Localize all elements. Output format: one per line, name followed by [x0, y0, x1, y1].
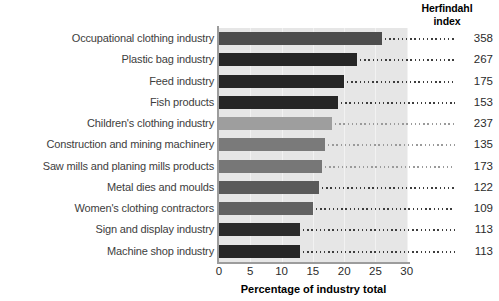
chart-row: Feed industry175	[0, 71, 499, 92]
leader-dots	[335, 123, 455, 125]
herfindahl-index-value: 153	[455, 92, 493, 113]
leader-dots	[316, 208, 455, 210]
herfindahl-index-value: 237	[455, 113, 493, 134]
x-tick-label: 0	[204, 265, 234, 277]
herfindahl-index-value: 109	[455, 198, 493, 219]
category-label: Fish products	[0, 92, 214, 113]
x-axis-line	[217, 262, 410, 264]
category-label: Children's clothing industry	[0, 113, 214, 134]
leader-dots	[303, 251, 455, 253]
bar	[219, 138, 325, 151]
herfindahl-index-value: 175	[455, 71, 493, 92]
herfindahl-index-value: 267	[455, 49, 493, 70]
category-label: Feed industry	[0, 71, 214, 92]
bar	[219, 96, 338, 109]
herfindahl-index-value: 113	[455, 219, 493, 240]
category-label: Occupational clothing industry	[0, 28, 214, 49]
herfindahl-bar-chart-figure: Herfindahl index Occupational clothing i…	[0, 0, 499, 301]
chart-row: Fish products153	[0, 92, 499, 113]
chart-row: Sign and display industry113	[0, 219, 499, 240]
category-label: Machine shop industry	[0, 241, 214, 262]
x-tick-label: 30	[392, 265, 422, 277]
herfindahl-index-value: 173	[455, 156, 493, 177]
chart-row: Construction and mining machinery135	[0, 134, 499, 155]
chart-rows: Occupational clothing industry358Plastic…	[0, 28, 499, 262]
x-tick-label: 10	[267, 265, 297, 277]
herfindahl-header-line2: index	[401, 15, 493, 28]
bar	[219, 32, 382, 45]
leader-dots	[341, 102, 455, 104]
category-label: Plastic bag industry	[0, 49, 214, 70]
chart-row: Occupational clothing industry358	[0, 28, 499, 49]
chart-row: Women's clothing contractors109	[0, 198, 499, 219]
herfindahl-index-header: Herfindahl index	[401, 2, 493, 27]
category-label: Construction and mining machinery	[0, 134, 214, 155]
chart-row: Plastic bag industry267	[0, 49, 499, 70]
bar	[219, 223, 300, 236]
herfindahl-index-value: 135	[455, 134, 493, 155]
bar	[219, 181, 319, 194]
leader-dots	[325, 166, 455, 168]
leader-dots	[303, 229, 455, 231]
category-label: Saw mills and planing mills products	[0, 156, 214, 177]
leader-dots	[328, 144, 455, 146]
bar	[219, 75, 344, 88]
x-tick-label: 20	[329, 265, 359, 277]
leader-dots	[385, 38, 455, 40]
bar	[219, 117, 332, 130]
bar	[219, 160, 322, 173]
x-tick-label: 5	[235, 265, 265, 277]
x-tick-label: 15	[298, 265, 328, 277]
chart-row: Machine shop industry113	[0, 241, 499, 262]
category-label: Women's clothing contractors	[0, 198, 214, 219]
x-tick-label: 25	[360, 265, 390, 277]
category-label: Metal dies and moulds	[0, 177, 214, 198]
herfindahl-index-value: 358	[455, 28, 493, 49]
herfindahl-index-value: 122	[455, 177, 493, 198]
herfindahl-index-value: 113	[455, 241, 493, 262]
leader-dots	[347, 81, 455, 83]
bar	[219, 202, 313, 215]
chart-row: Saw mills and planing mills products173	[0, 156, 499, 177]
leader-dots	[360, 59, 455, 61]
bar	[219, 245, 300, 258]
category-label: Sign and display industry	[0, 219, 214, 240]
bar	[219, 53, 357, 66]
herfindahl-header-line1: Herfindahl	[401, 2, 493, 15]
leader-dots	[322, 187, 455, 189]
x-axis-title: Percentage of industry total	[219, 283, 408, 295]
chart-row: Children's clothing industry237	[0, 113, 499, 134]
chart-row: Metal dies and moulds122	[0, 177, 499, 198]
